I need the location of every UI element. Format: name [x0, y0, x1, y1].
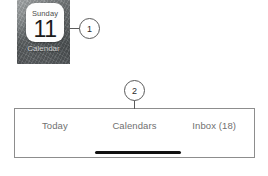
tab-today[interactable]: Today: [15, 120, 95, 132]
callout-marker-1: 1: [79, 18, 100, 39]
calendar-app-icon-caption: Calendar: [17, 44, 70, 54]
tab-inbox[interactable]: Inbox (18): [174, 120, 254, 132]
tab-bar-items: Today Calendars Inbox (18): [15, 120, 254, 132]
tab-bar: Today Calendars Inbox (18): [14, 108, 255, 158]
calendar-icon-day-number: 11: [34, 17, 57, 41]
callout-leader-line-2: [134, 100, 135, 109]
callout-leader-line-1: [66, 28, 80, 29]
tab-calendars[interactable]: Calendars: [95, 120, 175, 132]
calendar-icon-tile[interactable]: Sunday 11: [26, 3, 64, 42]
callout-marker-2: 2: [124, 80, 145, 101]
calendar-app-icon[interactable]: Sunday 11 Calendar: [17, 0, 70, 64]
home-indicator[interactable]: [95, 151, 181, 154]
